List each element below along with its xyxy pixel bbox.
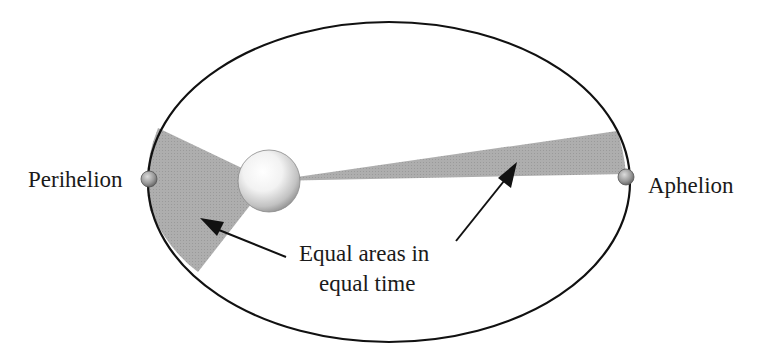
aphelion-sector	[269, 131, 626, 181]
equal-areas-label-line2: equal time	[319, 270, 415, 297]
sun-icon	[238, 150, 300, 212]
planet-aphelion-icon	[618, 169, 634, 185]
planet-perihelion-icon	[141, 171, 157, 187]
equal-areas-label-line1: Equal areas in	[299, 240, 429, 267]
aphelion-label: Aphelion	[648, 172, 734, 199]
perihelion-label: Perihelion	[28, 166, 123, 193]
